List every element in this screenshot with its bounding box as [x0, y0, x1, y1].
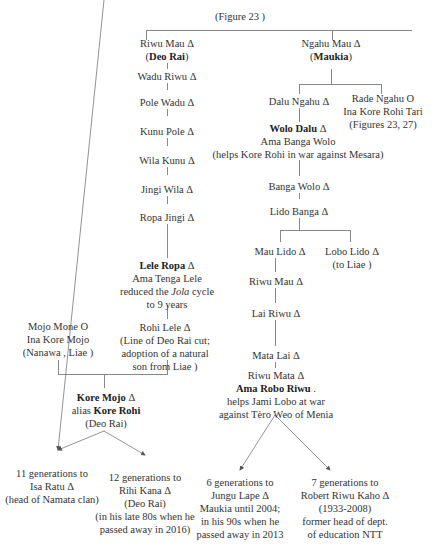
arrows: [0, 0, 432, 546]
node-kunu-pole: Kunu Pole Δ: [140, 125, 194, 138]
node-name: Riwu Mau Δ: [140, 37, 194, 50]
node-pole-wadu: Pole Wadu Δ: [140, 96, 195, 109]
node-lele-ropa: Lele Ropa Δ Ama Tenga Lele reduced the J…: [120, 259, 214, 311]
node-riwu-mata: Riwu Mata Δ Ama Robo Riwu . helps Jami L…: [219, 369, 333, 421]
node-lido-banga: Lido Banga Δ: [270, 205, 329, 218]
descendant-jungu-lape: 6 generations to Jungu Lape Δ Maukia unt…: [196, 476, 283, 541]
node-ropa-jingi: Ropa Jingi Δ: [140, 211, 195, 224]
node-dalu-ngahu: Dalu Ngahu Δ: [269, 95, 329, 108]
node-mau-lido: Mau Lido Δ: [254, 245, 305, 258]
node-wila-kunu: Wila Kunu Δ: [139, 154, 194, 167]
descendant-isa-ratu: 11 generations to Isa Ratu Δ (head of Na…: [5, 467, 99, 506]
node-jingi-wila: Jingi Wila Δ: [141, 183, 193, 196]
node-riwu-mau-right: Riwu Mau Δ: [249, 275, 303, 288]
node-rohi-lele: Rohi Lele Δ (Line of Deo Rai cut; adopti…: [120, 321, 210, 373]
descendant-rihi-kana: 12 generations to Rihi Kana Δ (Deo Rai) …: [95, 471, 194, 536]
node-kore-mojo: Kore Mojo Δ alias Kore Rohi (Deo Rai): [72, 391, 141, 430]
figure-reference: (Figure 23 ): [215, 10, 265, 23]
descendant-robert-riwu-kaho: 7 generations to Robert Riwu Kaho Δ (193…: [301, 476, 390, 541]
node-riwu-mau-left: Riwu Mau Δ (Deo Rai): [140, 37, 194, 63]
node-mojo-mone: Mojo Mone O Ina Kore Mojo (Nanawa , Liae…: [23, 320, 94, 359]
node-lai-riwu: Lai Riwu Δ: [252, 307, 301, 320]
node-wolo-dalu: Wolo Dalu Δ Ama Banga Wolo (helps Kore R…: [213, 122, 384, 161]
node-wadu-riwu: Wadu Riwu Δ: [138, 70, 197, 83]
node-lobo-lido: Lobo Lido Δ (to Liae ): [325, 245, 379, 271]
node-note: (Deo Rai): [140, 50, 194, 63]
node-ngahu-mau: Ngahu Mau Δ (Maukia): [301, 37, 360, 63]
node-banga-wolo: Banga Wolo Δ: [268, 180, 329, 193]
node-mata-lai: Mata Lai Δ: [252, 349, 300, 362]
